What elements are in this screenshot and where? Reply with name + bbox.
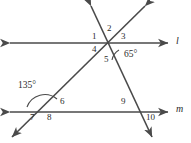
geometry-canvas xyxy=(0,0,191,143)
line-label-l: l xyxy=(176,36,179,46)
angle-label-4: 4 xyxy=(92,45,97,54)
angle-label-5: 5 xyxy=(104,55,109,64)
geometry-figure: 1 2 3 4 5 6 7 8 9 10 65° 135° l m xyxy=(0,0,191,143)
angle-label-9: 9 xyxy=(121,97,126,106)
angle-label-8: 8 xyxy=(47,113,52,122)
angle-label-2: 2 xyxy=(107,24,112,33)
transversal-steep xyxy=(91,6,152,137)
angle-label-1: 1 xyxy=(92,32,97,41)
angle-label-3: 3 xyxy=(121,32,126,41)
line-label-m: m xyxy=(176,104,183,114)
angle-measure-65: 65° xyxy=(124,50,137,60)
angle-label-7: 7 xyxy=(30,113,35,122)
arc-135-degrees xyxy=(27,95,57,107)
angle-measure-135: 135° xyxy=(18,81,36,91)
angle-label-10: 10 xyxy=(146,113,155,122)
angle-label-6: 6 xyxy=(60,97,65,106)
